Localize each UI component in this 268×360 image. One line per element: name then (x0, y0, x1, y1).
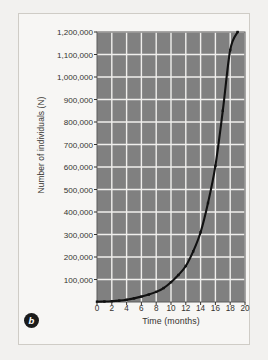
data-point-marker (207, 202, 209, 204)
data-point-marker (155, 291, 157, 293)
data-point-marker (133, 297, 135, 299)
y-axis-title: Number of individuals (N) (36, 60, 46, 230)
data-point-marker (148, 293, 150, 295)
exponential-growth-chart: 1,200,000 1,100,000 1,000,000 900,000 80… (0, 0, 268, 360)
data-point-marker (162, 287, 164, 289)
panel-label-b: b (24, 313, 39, 328)
x-tick-label: 14 (196, 304, 205, 313)
x-tick-label: 0 (95, 304, 100, 313)
x-tick-label: 20 (240, 304, 249, 313)
x-tick-label: 12 (181, 304, 190, 313)
data-point-marker (192, 250, 194, 252)
data-point-marker (222, 110, 224, 112)
data-point-marker (214, 165, 216, 167)
y-tick-label: 1,100,000 (37, 50, 93, 59)
y-tick-label: 300,000 (37, 230, 93, 239)
x-axis-title: Time (months) (97, 316, 245, 326)
data-point-marker (125, 299, 127, 301)
x-tick-label: 18 (226, 304, 235, 313)
data-point-marker (229, 49, 231, 51)
data-point-marker (170, 281, 172, 283)
data-point-marker (118, 299, 120, 301)
y-tick-label: 1,200,000 (37, 28, 93, 37)
data-point-marker (103, 300, 105, 302)
y-tick-label: 200,000 (37, 253, 93, 262)
x-tick-label: 10 (166, 304, 175, 313)
x-tick-label: 6 (139, 304, 144, 313)
data-point-marker (199, 231, 201, 233)
x-tick-label: 2 (110, 304, 115, 313)
y-axis-title-text: Number of individuals (N) (36, 97, 46, 194)
x-tick-label: 16 (211, 304, 220, 313)
x-tick-label: 4 (124, 304, 129, 313)
data-point-marker (140, 295, 142, 297)
data-point-marker (185, 265, 187, 267)
y-tick-label: 100,000 (37, 275, 93, 284)
data-point-marker (177, 274, 179, 276)
data-point-marker (236, 31, 238, 33)
x-tick-label: 8 (154, 304, 159, 313)
